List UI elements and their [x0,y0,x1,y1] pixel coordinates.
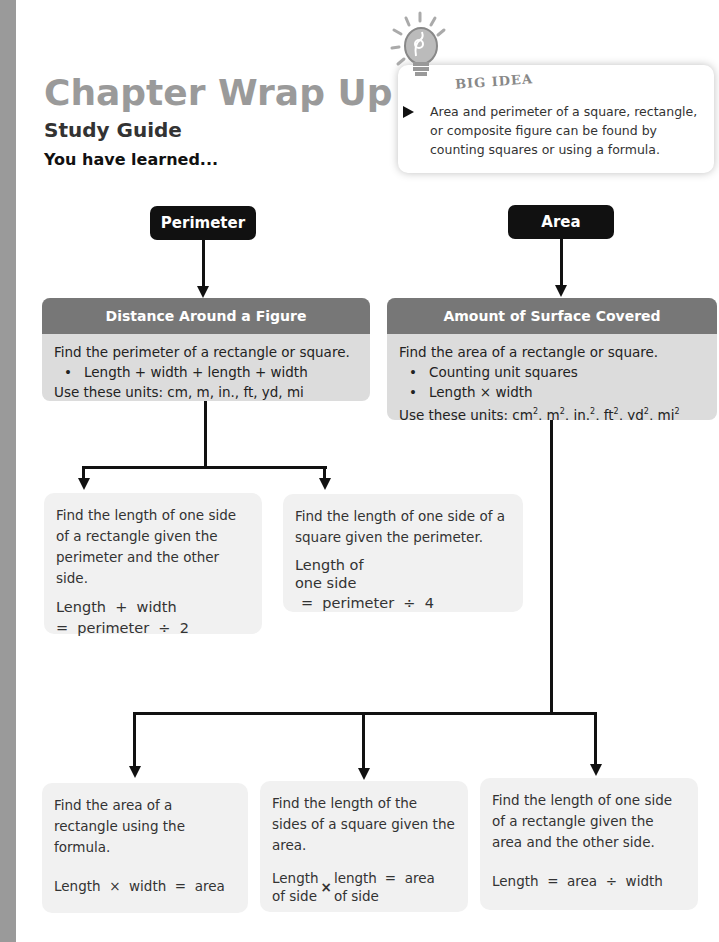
box-description: Find the length of one side of a rectang… [492,790,686,853]
arrow-down-icon [555,285,567,297]
unit: m [547,407,560,421]
formula: Length of one side = perimeter ÷ 4 [295,556,511,614]
formula-part: Length [272,869,319,887]
area-card-heading: Amount of Surface Covered [387,298,717,334]
exponent: 2 [590,407,595,416]
unit: cm [512,407,533,421]
arrow-down-icon [129,766,141,778]
connector-line [204,401,207,467]
units-prefix: Use these units: [399,407,512,421]
formula-line: Length + width [56,597,250,618]
perimeter-rectangle-side-box: Find the length of one side of a rectang… [44,493,262,634]
connector-line [560,239,563,285]
box-description: Find the length of one side of a rectang… [56,505,250,589]
formula-part: Length of [295,556,364,574]
area-label: Area [508,205,614,239]
perimeter-card-units: Use these units: cm, m, in., ft, yd, mi [54,382,358,401]
page-title: Chapter Wrap Up [44,72,392,113]
box-description: Find the area of a rectangle using the f… [54,795,204,858]
connector-line [133,712,136,768]
exponent: 2 [560,407,565,416]
box-description: Find the length of one side of a square … [295,506,511,548]
area-square-side-box: Find the length of the sides of a square… [260,781,468,912]
connector-line [202,240,205,286]
perimeter-card-bullet: Length + width + length + width [54,362,358,382]
area-card-bullet: Length × width [399,382,705,402]
formula-part: one side [295,574,364,592]
area-card-bullet: Counting unit squares [399,362,705,382]
formula-part: = area [385,868,435,889]
connector-line [594,712,597,766]
formula: Length of side × length of side = area [272,868,456,905]
area-rectangle-formula-box: Find the area of a rectangle using the f… [42,783,248,913]
formula-part: = perimeter ÷ 4 [301,593,434,614]
connector-line [550,420,553,714]
perimeter-card: Distance Around a Figure Find the perime… [42,298,370,401]
connector-line [133,712,597,715]
formula-part: of side [334,887,379,905]
perimeter-label: Perimeter [150,206,256,240]
exponent: 2 [614,407,619,416]
box-description: Find the length of the sides of a square… [272,793,456,856]
section-subtitle: Study Guide [44,118,182,142]
unit: yd [627,407,644,421]
perimeter-card-body: Find the perimeter of a rectangle or squ… [42,334,370,401]
formula-line: = perimeter ÷ 2 [56,618,250,639]
perimeter-card-line: Find the perimeter of a rectangle or squ… [54,342,358,362]
unit: in. [573,407,590,421]
arrow-down-icon [197,286,209,298]
intro-text: You have learned... [44,150,218,169]
exponent: 2 [644,407,649,416]
formula: Length + width = perimeter ÷ 2 [56,597,250,639]
connector-line [362,712,365,768]
perimeter-square-side-box: Find the length of one side of a square … [283,494,523,612]
unit: mi [657,407,674,421]
page-edge-stripe [0,0,16,942]
big-idea-text: Area and perimeter of a square, rectangl… [430,102,710,159]
fraction-label: Length of one side [295,556,364,592]
arrow-down-icon [319,478,331,490]
area-card-body: Find the area of a rectangle or square. … [387,334,717,420]
area-card-units: Use these units: cm2, m2, in.2, ft2, yd2… [399,402,705,420]
formula-part: × [321,877,332,898]
arrow-down-icon [590,764,602,776]
exponent: 2 [533,407,538,416]
arrow-down-icon [358,768,370,780]
formula: Length = area ÷ width [492,871,686,892]
exponent: 2 [674,407,679,416]
triangle-bullet-icon [403,106,414,118]
fraction-label: Length of side [272,869,319,905]
arrow-down-icon [78,478,90,490]
unit: ft [604,407,614,421]
perimeter-card-heading: Distance Around a Figure [42,298,370,334]
formula-part: of side [272,887,319,905]
connector-line [82,466,327,469]
area-rectangle-side-box: Find the length of one side of a rectang… [480,778,698,910]
formula: Length × width = area [54,876,236,897]
formula-part: length [334,869,379,887]
fraction-label: length of side [334,869,379,905]
area-card-line: Find the area of a rectangle or square. [399,342,705,362]
area-card: Amount of Surface Covered Find the area … [387,298,717,420]
